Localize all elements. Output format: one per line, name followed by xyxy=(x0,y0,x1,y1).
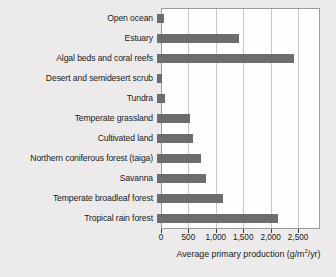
chart-row: Open ocean xyxy=(0,8,336,28)
category-label: Cultivated land xyxy=(0,134,157,143)
category-label: Algal beds and coral reefs xyxy=(0,54,157,63)
x-axis: 05001,0001,5002,0002,500 xyxy=(161,229,320,247)
x-tick-label: 0 xyxy=(159,233,164,242)
chart-row: Desert and semidesert scrub xyxy=(0,68,336,88)
bar xyxy=(157,34,239,43)
bar-cell xyxy=(157,169,336,189)
chart-row: Estuary xyxy=(0,28,336,48)
bar xyxy=(157,134,193,143)
chart-row: Northern coniferous forest (taiga) xyxy=(0,149,336,169)
bar-cell xyxy=(157,68,336,88)
bar xyxy=(157,114,190,123)
bar-cell xyxy=(157,108,336,128)
category-label: Northern coniferous forest (taiga) xyxy=(0,154,157,163)
bar-cell xyxy=(157,209,336,229)
chart-row: Tundra xyxy=(0,88,336,108)
bar-cell xyxy=(157,189,336,209)
chart-row: Algal beds and coral reefs xyxy=(0,48,336,68)
chart-rows: Open oceanEstuaryAlgal beds and coral re… xyxy=(0,8,336,229)
bar xyxy=(157,14,164,23)
category-label: Temperate broadleaf forest xyxy=(0,194,157,203)
bar xyxy=(157,214,278,223)
bar xyxy=(157,154,201,163)
x-tick-label: 500 xyxy=(182,233,196,242)
x-tick-label: 2,500 xyxy=(288,233,309,242)
x-axis-title: Average primary production (g/m2/yr) xyxy=(161,248,336,259)
x-tick-label: 2,000 xyxy=(260,233,281,242)
chart-row: Temperate grassland xyxy=(0,108,336,128)
category-label: Tundra xyxy=(0,94,157,103)
category-label: Savanna xyxy=(0,174,157,183)
bar xyxy=(157,94,165,103)
chart-row: Cultivated land xyxy=(0,129,336,149)
bar-cell xyxy=(157,28,336,48)
category-label: Estuary xyxy=(0,34,157,43)
x-tick-label: 1,500 xyxy=(233,233,254,242)
bar xyxy=(157,74,162,83)
bar xyxy=(157,54,294,63)
chart-row: Savanna xyxy=(0,169,336,189)
bar-cell xyxy=(157,48,336,68)
x-tick-label: 1,000 xyxy=(206,233,227,242)
category-label: Tropical rain forest xyxy=(0,214,157,223)
bar xyxy=(157,194,223,203)
bar-cell xyxy=(157,8,336,28)
category-label: Desert and semidesert scrub xyxy=(0,74,157,83)
bar-cell xyxy=(157,129,336,149)
category-label: Temperate grassland xyxy=(0,114,157,123)
bar-cell xyxy=(157,88,336,108)
bar-chart-figure: Open oceanEstuaryAlgal beds and coral re… xyxy=(0,0,336,277)
bar xyxy=(157,174,206,183)
category-label: Open ocean xyxy=(0,14,157,23)
chart-row: Temperate broadleaf forest xyxy=(0,189,336,209)
chart-row: Tropical rain forest xyxy=(0,209,336,229)
bar-cell xyxy=(157,149,336,169)
